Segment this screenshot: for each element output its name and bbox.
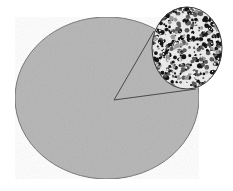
diagram-canvas [0, 0, 233, 191]
magnified-inset-diagram [0, 0, 233, 191]
